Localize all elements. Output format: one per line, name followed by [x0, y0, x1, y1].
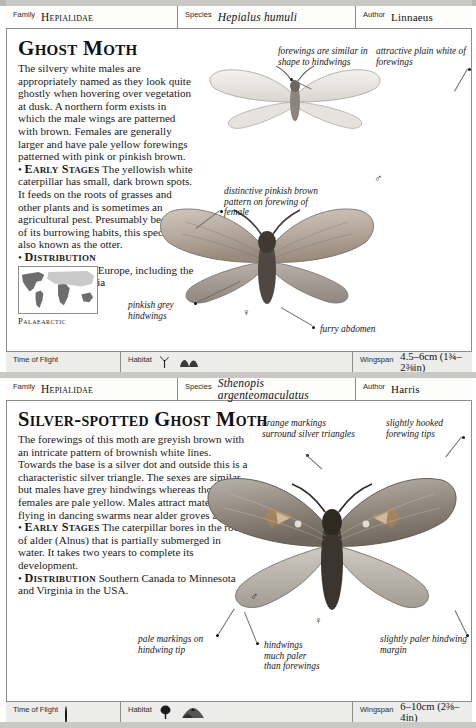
- habitat-label: Habitat: [128, 705, 152, 714]
- entry-title: Silver-spotted Ghost Moth: [18, 408, 268, 431]
- tree-icon: [159, 705, 172, 719]
- distribution-heading: Distribution: [25, 250, 96, 264]
- header-family-cell: Family Hepialidae: [6, 378, 178, 400]
- field-guide-page: Family Hepialidae Species Hepialus humul…: [0, 0, 476, 728]
- distribution-map: [18, 266, 98, 314]
- header-species-cell: Species Hepialus humuli: [178, 6, 356, 28]
- author-value: Linnaeus: [391, 11, 433, 23]
- header-family-cell: Family Hepialidae: [6, 6, 178, 28]
- species-label: Species: [185, 382, 212, 391]
- family-label: Family: [13, 10, 35, 19]
- male-moth-illustration: [202, 58, 388, 136]
- annotation-hooked-forewing-tips: slightly hooked forewing tips: [386, 418, 472, 439]
- header-author-cell: Author Harris: [356, 378, 472, 400]
- low-scrub-icon: [179, 358, 199, 367]
- annotation-orange-markings: orange markings surround silver triangle…: [262, 418, 358, 439]
- early-stages-heading: Early Stages: [25, 162, 100, 176]
- time-of-flight-label: Time of Flight: [13, 705, 58, 714]
- annotation-leader-line: [445, 436, 462, 457]
- world-map-svg: [19, 267, 97, 313]
- annotation-hindwings-paler: hindwings much paler than forewings: [264, 640, 320, 672]
- habitat-label: Habitat: [128, 355, 152, 364]
- entry-title: Ghost Moth: [18, 36, 137, 61]
- map-region-caption: Palaearctic: [18, 316, 66, 326]
- time-of-flight-cell: Time of Flight: [6, 352, 121, 372]
- distribution-heading: Distribution: [25, 571, 96, 585]
- habitat-icon-group: [159, 356, 199, 368]
- header-author-cell: Author Linnaeus: [356, 6, 472, 28]
- wingspan-label: Wingspan: [360, 705, 393, 714]
- annotation-pale-markings-hindwing: pale markings on hindwing tip: [138, 634, 222, 655]
- wingspan-label: Wingspan: [360, 355, 393, 364]
- habitat-cell: Habitat: [121, 702, 353, 722]
- female-symbol: ♀: [242, 306, 250, 318]
- annotation-pinkish-grey-hindwings: pinkish grey hindwings: [128, 300, 200, 321]
- time-of-flight-label: Time of Flight: [13, 355, 58, 364]
- header-species-cell: Species Sthenopis argenteomaculatus: [178, 378, 356, 400]
- author-value: Harris: [391, 383, 420, 395]
- species-label: Species: [185, 10, 212, 19]
- entry-footer-bar: Time of Flight Habitat: [6, 701, 472, 722]
- annotation-dot: [468, 68, 471, 71]
- annotation-dot: [466, 634, 469, 637]
- half-disc-icon: [65, 707, 76, 718]
- annotation-dot: [220, 210, 223, 213]
- annotation-furry-abdomen: furry abdomen: [320, 324, 410, 335]
- annotation-plain-white-forewings: attractive plain white of forewings: [376, 46, 472, 67]
- annotation-dot: [256, 642, 259, 645]
- entry-footer-bar: Time of Flight Habitat: [6, 351, 472, 372]
- wingspan-value: 4.5–6cm (1¾–2⅜in): [400, 351, 472, 372]
- annotation-forewing-shape: forewings are similar in shape to hindwi…: [278, 46, 370, 67]
- family-value: Hepialidae: [41, 383, 93, 395]
- grass-tuft-icon: [159, 356, 170, 368]
- annotation-pinkish-brown-pattern: distinctive pinkish brown pattern on for…: [224, 186, 334, 218]
- entry-header-bar: Family Hepialidae Species Sthenopis arge…: [6, 378, 472, 401]
- species-entry-silver-spotted-ghost-moth: Family Hepialidae Species Sthenopis arge…: [0, 378, 476, 722]
- wingspan-value: 6–10cm (2⅜–4in): [400, 701, 472, 722]
- annotation-paler-hindwing-margin: slightly paler hindwing margin: [380, 634, 472, 655]
- wingspan-cell: Wingspan 6–10cm (2⅜–4in): [353, 702, 472, 722]
- intro-paragraph: The silvery white males are appropriatel…: [18, 62, 196, 163]
- wingspan-cell: Wingspan 4.5–6cm (1¾–2⅜in): [353, 352, 472, 372]
- wooded-hill-icon: [181, 707, 205, 718]
- habitat-icon-group: [159, 705, 205, 719]
- bullet-glyph: •: [18, 251, 25, 263]
- species-value: Hepialus humuli: [218, 11, 297, 23]
- family-label: Family: [13, 382, 35, 391]
- species-value: Sthenopis argenteomaculatus: [218, 378, 355, 401]
- bullet-glyph: •: [18, 572, 25, 584]
- crescent-moon-icon: [65, 357, 76, 368]
- page-bottom-margin: [0, 722, 476, 728]
- male-symbol: ♂: [374, 172, 382, 184]
- annotation-dot: [312, 326, 315, 329]
- family-value: Hepialidae: [41, 11, 93, 23]
- female-symbol: ♀: [314, 614, 322, 626]
- annotation-leader-line: [454, 69, 468, 92]
- entry-header-bar: Family Hepialidae Species Hepialus humul…: [6, 6, 472, 29]
- author-label: Author: [363, 382, 385, 391]
- habitat-cell: Habitat: [121, 352, 353, 372]
- species-entry-ghost-moth: Family Hepialidae Species Hepialus humul…: [0, 6, 476, 372]
- bullet-glyph: •: [18, 521, 25, 533]
- bullet-glyph: •: [18, 163, 25, 175]
- time-of-flight-cell: Time of Flight: [6, 702, 121, 722]
- silver-spotted-moth-illustration: [202, 466, 462, 656]
- author-label: Author: [363, 10, 385, 19]
- early-stages-heading: Early Stages: [25, 520, 100, 534]
- male-symbol: ♂: [250, 590, 258, 602]
